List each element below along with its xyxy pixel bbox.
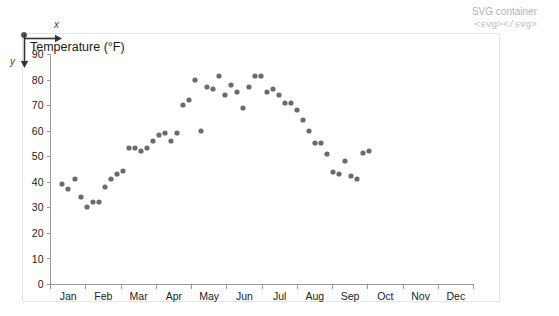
data-point (186, 97, 191, 102)
data-point (96, 199, 101, 204)
data-point (234, 89, 239, 94)
data-point (228, 82, 233, 87)
y-axis-tick-label: 20 (32, 227, 44, 239)
data-point (102, 184, 107, 189)
data-point (360, 150, 365, 155)
data-point (306, 128, 311, 133)
data-point (192, 77, 197, 82)
x-axis-tick-label: May (199, 290, 220, 302)
data-point (366, 148, 371, 153)
data-point (108, 176, 113, 181)
x-axis: JanFebMarAprMayJunJulAugSepOctNovDec (51, 285, 474, 302)
data-point (126, 145, 131, 150)
data-point (324, 151, 329, 156)
data-point (120, 168, 125, 173)
data-point (114, 171, 119, 176)
data-point (222, 92, 227, 97)
data-point (198, 128, 203, 133)
y-axis-tick-label: 90 (32, 48, 44, 60)
data-point (150, 138, 155, 143)
x-axis-tick-label: Jun (236, 290, 253, 302)
data-point (174, 130, 179, 135)
data-points-layer (59, 73, 371, 209)
data-point (240, 105, 245, 110)
y-axis: 0102030405060708090 (32, 48, 51, 290)
x-axis-tick-label: Oct (377, 290, 393, 302)
data-point (318, 140, 323, 145)
y-axis-tick-label: 10 (32, 253, 44, 265)
y-axis-tick-label: 60 (32, 125, 44, 137)
y-axis-tick-label: 0 (38, 278, 44, 290)
x-axis-tick-label: Nov (411, 290, 430, 302)
data-point (84, 204, 89, 209)
data-point (204, 84, 209, 89)
x-axis-tick-label: Dec (447, 290, 466, 302)
x-axis-tick-label: Apr (166, 290, 183, 302)
data-point (72, 176, 77, 181)
data-point (276, 92, 281, 97)
data-point (216, 73, 221, 78)
data-point (78, 194, 83, 199)
data-point (144, 145, 149, 150)
x-axis-tick-label: Sep (341, 290, 360, 302)
data-point (132, 145, 137, 150)
x-axis-tick-label: Mar (130, 290, 149, 302)
data-point (252, 73, 257, 78)
data-point (246, 84, 251, 89)
data-point (336, 171, 341, 176)
data-point (312, 140, 317, 145)
x-axis-tick-label: Jul (273, 290, 286, 302)
data-point (65, 186, 70, 191)
x-axis-tick-label: Jan (60, 290, 77, 302)
x-axis-tick-label: Feb (94, 290, 112, 302)
data-point (342, 158, 347, 163)
x-axis-tick-label: Aug (306, 290, 325, 302)
data-point (156, 132, 161, 137)
data-point (210, 86, 215, 91)
data-point (282, 100, 287, 105)
data-point (59, 181, 64, 186)
y-axis-tick-label: 80 (32, 74, 44, 86)
data-point (354, 176, 359, 181)
data-point (264, 89, 269, 94)
y-axis-tick-label: 40 (32, 176, 44, 188)
data-point (288, 100, 293, 105)
y-axis-tick-label: 70 (32, 99, 44, 111)
data-point (90, 199, 95, 204)
data-point (180, 102, 185, 107)
data-point (294, 107, 299, 112)
y-axis-tick-label: 50 (32, 150, 44, 162)
plot-area: 0102030405060708090 JanFebMarAprMayJunJu… (0, 0, 559, 316)
data-point (330, 169, 335, 174)
data-point (270, 86, 275, 91)
data-point (168, 138, 173, 143)
data-point (348, 173, 353, 178)
data-point (162, 130, 167, 135)
y-axis-tick-label: 30 (32, 201, 44, 213)
data-point (300, 117, 305, 122)
data-point (138, 148, 143, 153)
temperature-scatter-chart: Temperature (°F) 0102030405060708090 Jan… (0, 0, 559, 316)
data-point (258, 73, 263, 78)
